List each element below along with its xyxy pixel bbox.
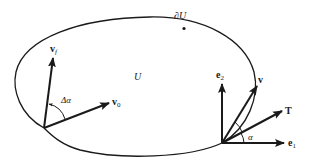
region-label: U (134, 71, 142, 82)
v-final-label: vf (50, 43, 58, 56)
delta-alpha-arc (49, 104, 65, 119)
left-vector-group: vf v0 Δα (44, 43, 121, 128)
e1-label: e1 (288, 137, 296, 150)
boundary-label: ∂U (174, 10, 187, 21)
v-label: v (258, 74, 263, 85)
alpha-arc (241, 133, 244, 143)
region-boundary-curve (15, 17, 256, 156)
v-initial-arrow (44, 103, 109, 128)
e2-label: e2 (216, 69, 224, 82)
v-initial-label: v0 (112, 96, 121, 109)
delta-alpha-label: Δα (60, 95, 71, 105)
diagram-canvas: ∂U U vf v0 Δα e2 e1 v T α (0, 0, 314, 165)
boundary-point (182, 27, 185, 30)
alpha-label: α (248, 132, 253, 142)
tangent-label: T (285, 105, 292, 116)
v-final-arrow (44, 58, 53, 128)
right-frame-group: e2 e1 v T α (216, 69, 296, 150)
